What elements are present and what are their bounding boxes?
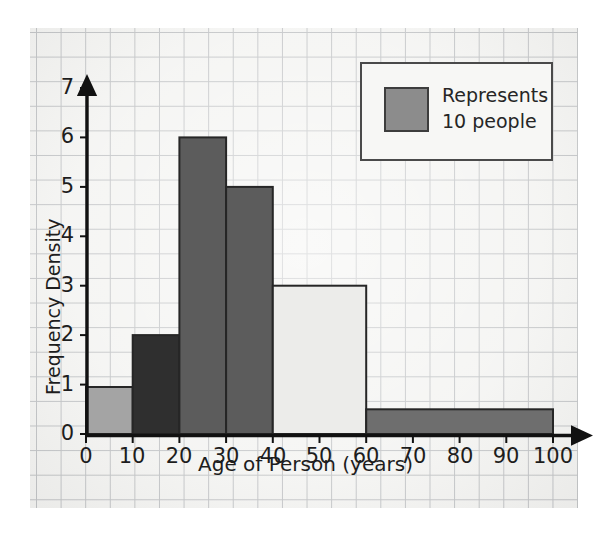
legend-caption-line-1: Represents [442, 82, 548, 108]
legend-caption-line-2: 10 people [442, 108, 548, 134]
y-tick-label-0: 0 [48, 421, 74, 445]
legend-caption: Represents 10 people [442, 82, 548, 134]
bar-60-100 [366, 409, 553, 434]
bar-0-10 [86, 387, 133, 434]
legend-color-swatch [384, 87, 429, 132]
y-tick-label-5: 5 [48, 174, 74, 198]
bar-20-30 [179, 137, 226, 434]
y-tick-label-6: 6 [48, 124, 74, 148]
bar-30-40 [226, 187, 273, 434]
legend-box: Represents 10 people [360, 62, 553, 161]
y-axis-title: Frequency Density [42, 219, 64, 395]
y-tick-label-7: 7 [48, 75, 74, 99]
bar-series [86, 137, 553, 434]
bar-10-20 [133, 335, 180, 434]
x-axis-title: Age of Person (years) [0, 452, 611, 476]
histogram-figure: 0 1 2 3 4 5 6 7 0 10 20 30 40 50 60 70 8… [0, 0, 611, 535]
bar-40-60 [273, 286, 366, 434]
